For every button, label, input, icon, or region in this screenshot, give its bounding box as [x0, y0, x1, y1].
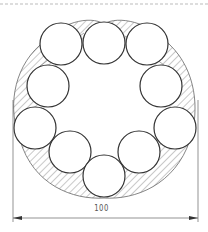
circle-2 [40, 23, 82, 65]
dimension-label: 100 [94, 203, 108, 213]
arrow-right-icon [189, 216, 198, 220]
technical-drawing [0, 0, 208, 232]
circle-3 [126, 23, 168, 65]
circle-6 [14, 107, 56, 149]
circle-1 [83, 22, 125, 64]
circle-7 [154, 107, 196, 149]
circle-9 [118, 131, 160, 173]
circle-10 [83, 155, 125, 197]
circle-4 [27, 65, 69, 107]
arrow-left-icon [13, 216, 22, 220]
circle-5 [140, 65, 182, 107]
